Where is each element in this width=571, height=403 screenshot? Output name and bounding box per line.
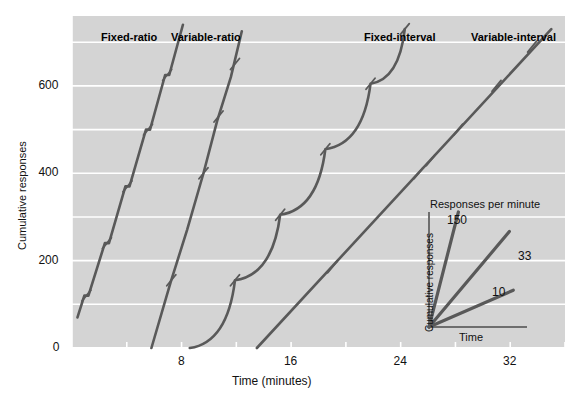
y-tick-label: 0 (53, 340, 60, 354)
x-tick-label: 16 (284, 354, 297, 368)
series-label-variable-ratio: Variable-ratio (171, 31, 241, 43)
figure-container: Cumulative responses Time (minutes) 0200… (0, 0, 571, 403)
inset-x-axis-title: Time (459, 331, 483, 343)
y-tick-label: 400 (38, 165, 58, 179)
y-tick-label: 200 (38, 253, 58, 267)
series-label-fixed-ratio: Fixed-ratio (101, 31, 157, 43)
x-tick-label: 32 (503, 354, 516, 368)
series-label-fixed-interval: Fixed-interval (364, 31, 436, 43)
inset-title: Responses per minute (430, 198, 540, 210)
y-tick-label: 600 (38, 78, 58, 92)
x-axis-title: Time (minutes) (232, 374, 312, 388)
y-axis-title: Cumulative responses (16, 141, 28, 250)
inset-slope-label-10: 10 (492, 285, 505, 299)
x-tick-label: 24 (393, 354, 406, 368)
series-label-variable-interval: Variable-interval (471, 31, 556, 43)
inset-slope-label-33: 33 (518, 249, 531, 263)
x-tick-label: 8 (178, 354, 185, 368)
inset-y-axis-title: Cumulative responses (424, 233, 435, 332)
inset-slope-label-150: 150 (447, 213, 467, 227)
